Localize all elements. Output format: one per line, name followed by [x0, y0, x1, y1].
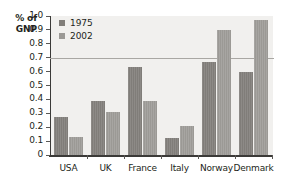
legend-item: 2002	[59, 30, 93, 42]
legend-label: 2002	[70, 32, 93, 41]
x-axis-label: Denmark	[234, 163, 274, 173]
legend-swatch-icon	[59, 33, 65, 39]
bar	[180, 126, 195, 155]
y-tick-label: 0.1	[29, 135, 43, 145]
bar	[69, 137, 84, 155]
x-axis-label: UK	[99, 163, 111, 173]
x-axis-label: Norway	[200, 163, 233, 173]
y-tick-label: 0.5	[29, 80, 43, 90]
x-tick-mark	[198, 155, 199, 159]
bar	[54, 117, 69, 155]
y-tick-mark	[46, 113, 50, 114]
x-tick-mark	[161, 155, 162, 159]
x-axis-label: France	[128, 163, 157, 173]
y-tick-label: 0	[37, 149, 43, 159]
y-tick-label: 1.0	[29, 10, 43, 20]
y-tick-label: 0.6	[29, 66, 43, 76]
x-axis-label: USA	[59, 163, 77, 173]
bar	[128, 67, 143, 155]
bar	[91, 101, 106, 155]
y-tick-mark	[46, 155, 50, 156]
x-axis-label: Italy	[170, 163, 189, 173]
x-tick-mark	[235, 155, 236, 159]
legend: 19752002	[59, 17, 93, 43]
bar	[217, 30, 232, 155]
y-tick-label: 0.3	[29, 107, 43, 117]
y-tick-mark	[46, 99, 50, 100]
bar	[106, 112, 121, 155]
bar	[165, 138, 180, 155]
y-tick-label: 0.7	[29, 52, 43, 62]
reference-line-0-7	[50, 58, 274, 59]
bar	[239, 72, 254, 155]
bar	[143, 101, 158, 155]
y-tick-mark	[46, 85, 50, 86]
x-tick-mark	[272, 155, 273, 159]
y-tick-mark	[46, 127, 50, 128]
legend-item: 1975	[59, 17, 93, 29]
y-tick-mark	[46, 71, 50, 72]
y-tick-mark	[46, 43, 50, 44]
y-tick-mark	[46, 141, 50, 142]
y-tick-label: 0.4	[29, 93, 43, 103]
y-tick-label: 0.9	[29, 24, 43, 34]
y-tick-mark	[46, 16, 50, 17]
legend-label: 1975	[70, 19, 93, 28]
y-tick-label: 0.8	[29, 38, 43, 48]
y-tick-label: 0.2	[29, 121, 43, 131]
legend-swatch-icon	[59, 20, 65, 26]
y-tick-mark	[46, 29, 50, 30]
bar-chart: % ofGNP 1.00.90.80.70.60.50.40.30.20.10 …	[0, 0, 285, 181]
x-tick-mark	[87, 155, 88, 159]
x-tick-mark	[124, 155, 125, 159]
bar	[202, 62, 217, 155]
bar	[254, 20, 269, 155]
